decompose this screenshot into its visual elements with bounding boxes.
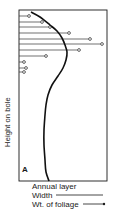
foliage-marker-icon	[25, 67, 28, 70]
plot-frame	[19, 10, 107, 181]
legend: Annual layer Width Wt. of foliage	[32, 182, 79, 209]
foliage-marker-icon	[78, 49, 81, 52]
foliage-marker-icon	[89, 38, 92, 41]
width-curve	[31, 12, 67, 181]
y-axis-label-text: Height on bole	[3, 97, 12, 147]
foliage-marker-icon	[28, 15, 31, 18]
foliage-marker-icon	[41, 21, 44, 24]
legend-entry-foliage: Wt. of foliage	[32, 200, 79, 209]
legend-entry-width: Width	[32, 191, 79, 200]
foliage-marker-icon	[101, 43, 104, 46]
foliage-marker-icon	[45, 55, 48, 58]
foliage-marker-icon	[23, 71, 26, 74]
legend-foliage-marker-icon	[103, 203, 105, 205]
foliage-marker-icon	[23, 61, 26, 64]
legend-title: Annual layer	[32, 182, 79, 191]
y-axis-label: Height on bole	[0, 96, 14, 148]
foliage-weight-series	[19, 15, 103, 74]
foliage-marker-icon	[68, 32, 71, 35]
panel-label: A	[22, 165, 28, 174]
